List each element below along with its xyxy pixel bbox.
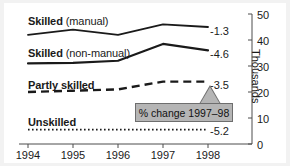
y-tick-label-50: 50 (257, 9, 269, 21)
x-tick-label-1995: 1995 (56, 149, 90, 161)
callout-label: % change 1997–98 (139, 107, 230, 119)
series-label-bold: Unskilled (28, 116, 76, 128)
series-label-bold: Skilled (28, 47, 63, 59)
callout-box: % change 1997–98 (135, 103, 233, 122)
x-axis-ticks (28, 144, 208, 148)
series-end-value-unskilled: -5.2 (210, 125, 229, 137)
y-tick-label-40: 40 (257, 35, 269, 47)
x-tick-label-1998: 1998 (191, 149, 225, 161)
callout-pointer-icon (200, 87, 220, 104)
series-end-value-skilled-non-manual: -4.6 (210, 48, 229, 60)
y-axis-title: Thousands (250, 49, 262, 103)
series-label-bold: Partly skilled (28, 79, 94, 91)
y-tick-label-0: 0 (257, 139, 263, 151)
series-label-light: (non-manual) (66, 47, 130, 59)
series-label-skilled-non-manual: Skilled (non-manual) (28, 47, 130, 59)
series-label-light: (manual) (66, 15, 109, 27)
x-tick-label-1994: 1994 (11, 149, 45, 161)
series-label-bold: Skilled (28, 15, 63, 27)
chart-plot-area: Skilled (manual) Skilled (non-manual) Pa… (4, 3, 286, 163)
series-label-skilled-manual: Skilled (manual) (28, 15, 108, 27)
series-label-unskilled: Unskilled (28, 116, 76, 128)
x-tick-label-1996: 1996 (101, 149, 135, 161)
series-end-value-skilled-manual: -1.3 (210, 25, 229, 37)
chart-frame: Skilled (manual) Skilled (non-manual) Pa… (0, 0, 290, 166)
x-tick-label-1997: 1997 (146, 149, 180, 161)
series-label-partly-skilled: Partly skilled (28, 79, 94, 91)
y-tick-label-10: 10 (257, 113, 269, 125)
